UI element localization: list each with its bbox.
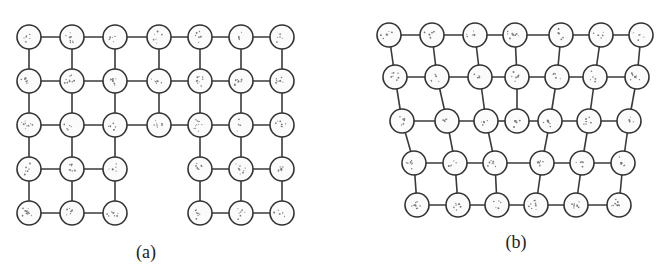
atom-node [17, 201, 41, 225]
atom-node [611, 151, 635, 175]
atom-node [405, 193, 429, 217]
atom-node [17, 25, 41, 49]
atom-node [229, 25, 253, 49]
atom-node [549, 23, 573, 47]
atom-node [564, 193, 588, 217]
atom-node [270, 25, 294, 49]
atom-node [188, 201, 212, 225]
atom-node [17, 69, 41, 93]
atom-node [483, 151, 507, 175]
atom-node [270, 69, 294, 93]
atom-node [463, 23, 487, 47]
atom-node [503, 23, 527, 47]
atom-node [443, 151, 467, 175]
atom-node [229, 157, 253, 181]
atom-node [629, 23, 653, 47]
atom-node [524, 193, 548, 217]
atom-node [103, 25, 127, 49]
atom-node [589, 23, 613, 47]
atom-node [147, 69, 171, 93]
atom-node [188, 113, 212, 137]
atom-node [147, 113, 171, 137]
atom-node [103, 201, 127, 225]
atom-node [390, 109, 414, 133]
atom-node [188, 69, 212, 93]
atom-node [505, 65, 529, 89]
atom-node [270, 157, 294, 181]
atom-node [530, 151, 554, 175]
atom-node [485, 193, 509, 217]
atom-node [607, 193, 631, 217]
lattice-figure: (a) (b) [0, 0, 666, 278]
atom-node [17, 157, 41, 181]
atom-node [270, 113, 294, 137]
atom-node [583, 65, 607, 89]
panel-a-label: (a) [136, 242, 156, 263]
atom-node [377, 23, 401, 47]
atom-node [570, 151, 594, 175]
atom-node [229, 69, 253, 93]
atom-node [17, 113, 41, 137]
atom-node [147, 25, 171, 49]
atom-node [103, 113, 127, 137]
atom-node [60, 69, 84, 93]
panel-a-square-lattice-with-vacancies: (a) [17, 25, 294, 263]
atom-node [617, 109, 641, 133]
atom-node [103, 69, 127, 93]
atom-node [188, 157, 212, 181]
atom-node [383, 65, 407, 89]
panel-b-label: (b) [506, 232, 527, 253]
atom-node [229, 113, 253, 137]
atom-node [446, 193, 470, 217]
atom-node [188, 25, 212, 49]
panel-b-atoms [377, 23, 653, 217]
atom-node [60, 25, 84, 49]
atom-node [420, 23, 444, 47]
atom-node [474, 109, 498, 133]
atom-node [577, 109, 601, 133]
panel-b-relaxed-lattice: (b) [377, 23, 653, 253]
atom-node [435, 109, 459, 133]
atom-node [545, 65, 569, 89]
atom-node [402, 151, 426, 175]
atom-node [538, 109, 562, 133]
atom-node [60, 201, 84, 225]
atom-node [60, 157, 84, 181]
atom-node [229, 201, 253, 225]
atom-node [505, 109, 529, 133]
atom-node [103, 157, 127, 181]
atom-node [468, 65, 492, 89]
atom-node [60, 113, 84, 137]
atom-node [625, 65, 649, 89]
atom-node [270, 201, 294, 225]
atom-node [425, 65, 449, 89]
